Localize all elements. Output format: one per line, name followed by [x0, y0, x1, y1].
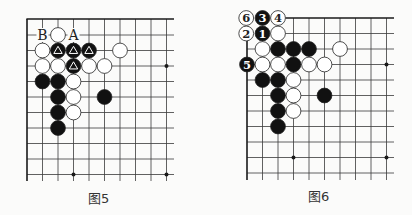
- star-point: [72, 173, 76, 177]
- black-stone: [271, 119, 286, 134]
- white-stone: [333, 42, 348, 57]
- white-stone: [66, 74, 81, 89]
- black-stone: [51, 90, 66, 105]
- black-stone-5: 5: [240, 57, 255, 72]
- figure-5-caption: 图5: [88, 188, 109, 207]
- black-stone: [302, 42, 317, 57]
- black-stone: [255, 73, 270, 88]
- star-point: [292, 156, 296, 160]
- black-stone: [286, 42, 301, 57]
- black-stone: [286, 57, 301, 72]
- go-board-figure-6: 634215: [239, 11, 394, 180]
- black-stone: [82, 43, 97, 58]
- svg-text:2: 2: [242, 27, 250, 41]
- black-stone: [97, 90, 112, 105]
- white-stone-6: 6: [239, 11, 254, 26]
- black-stone: [271, 73, 286, 88]
- white-stone: [255, 42, 270, 57]
- white-stone: [255, 57, 270, 72]
- white-stone-4: 4: [271, 11, 286, 26]
- black-stone: [317, 88, 332, 103]
- svg-text:B: B: [37, 27, 47, 43]
- point-label-a: A: [67, 27, 79, 43]
- black-stone: [51, 105, 66, 120]
- white-stone: [286, 73, 301, 88]
- black-stone: [66, 59, 81, 74]
- white-stone: [35, 59, 50, 74]
- svg-text:6: 6: [242, 11, 250, 25]
- star-point: [385, 63, 389, 67]
- go-board-figure-5: BA: [26, 19, 174, 181]
- star-point: [165, 173, 169, 177]
- white-stone: [35, 43, 50, 58]
- black-stone: [51, 74, 66, 89]
- black-stone-3: 3: [255, 11, 270, 26]
- white-stone: [317, 57, 332, 72]
- svg-text:1: 1: [258, 27, 266, 41]
- white-stone: [66, 105, 81, 120]
- white-stone: [51, 28, 66, 43]
- white-stone-2: 2: [239, 26, 254, 41]
- white-stone: [271, 57, 286, 72]
- figure-6-caption: 图6: [308, 186, 329, 205]
- black-stone: [66, 43, 81, 58]
- white-stone: [113, 43, 128, 58]
- white-stone: [97, 59, 112, 74]
- black-stone: [271, 88, 286, 103]
- white-stone: [286, 104, 301, 119]
- white-stone: [66, 90, 81, 105]
- white-stone: [51, 59, 66, 74]
- black-stone: [35, 74, 50, 89]
- black-stone-1: 1: [255, 26, 270, 41]
- white-stone: [302, 57, 317, 72]
- black-stone: [51, 43, 66, 58]
- star-point: [165, 64, 169, 68]
- svg-text:A: A: [67, 27, 79, 43]
- svg-text:3: 3: [258, 11, 266, 25]
- svg-text:5: 5: [243, 58, 251, 72]
- black-stone: [51, 121, 66, 136]
- white-stone: [271, 26, 286, 41]
- star-point: [385, 156, 389, 160]
- svg-text:4: 4: [274, 11, 282, 25]
- go-diagrams: BA 634215: [0, 0, 412, 215]
- black-stone: [271, 42, 286, 57]
- point-label-b: B: [37, 27, 49, 43]
- white-stone: [286, 88, 301, 103]
- white-stone: [82, 59, 97, 74]
- black-stone: [271, 104, 286, 119]
